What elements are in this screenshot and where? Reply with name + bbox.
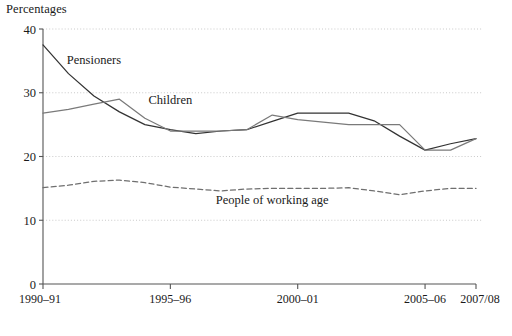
y-tick-label-0: 0	[30, 278, 36, 292]
data-series-group	[43, 45, 476, 195]
y-tick-label-20: 20	[24, 150, 37, 164]
x-tick-label-1990-91: 1990–91	[19, 292, 61, 306]
axes-group	[43, 29, 476, 284]
y-tick-label-10: 10	[24, 214, 37, 228]
x-tick-label-1995-96: 1995–96	[149, 292, 191, 306]
y-axis-tick-labels: 010203040	[24, 23, 37, 292]
x-tick-label-2007/08: 2007/08	[460, 292, 499, 306]
x-tick-label-2005-06: 2005–06	[404, 292, 446, 306]
x-axis-tick-labels: 1990–911995–962000–012005–062007/08	[19, 292, 500, 306]
line-chart-plot: 010203040 1990–911995–962000–012005–0620…	[0, 0, 512, 336]
chart-container: Percentages 010203040 1990–911995–962000…	[0, 0, 512, 336]
y-tick-label-40: 40	[24, 23, 37, 37]
series-label-children: Children	[148, 93, 192, 107]
series-annotation-labels: PensionersChildrenPeople of working age	[67, 53, 329, 207]
tick-marks-group	[39, 29, 476, 289]
x-tick-label-2000-01: 2000–01	[277, 292, 319, 306]
series-label-people-of-working-age: People of working age	[216, 193, 329, 207]
series-label-pensioners: Pensioners	[67, 53, 121, 67]
y-tick-label-30: 30	[24, 86, 37, 100]
